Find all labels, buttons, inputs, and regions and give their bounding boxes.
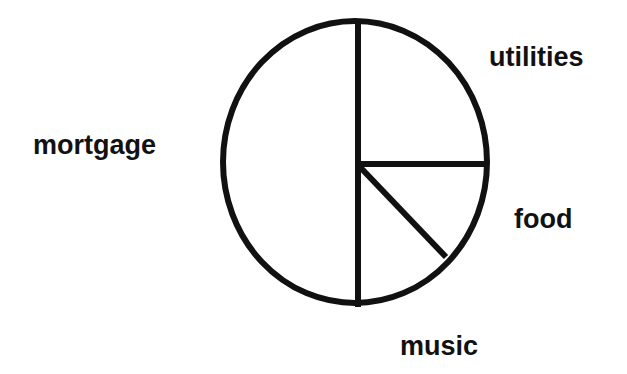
label-music: music [400, 333, 478, 360]
label-mortgage: mortgage [33, 132, 156, 159]
divider-food-music [360, 167, 446, 257]
label-utilities: utilities [489, 44, 584, 71]
label-food: food [514, 206, 572, 233]
